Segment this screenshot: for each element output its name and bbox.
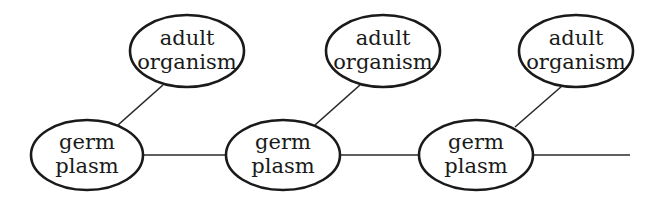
edge-germ1-adult1 bbox=[118, 85, 163, 125]
node-adult-organism-3: adult organism bbox=[519, 15, 633, 87]
node-label-line1: germ bbox=[255, 130, 311, 154]
node-germ-plasm-2: germ plasm bbox=[226, 120, 340, 190]
node-label-line1: germ bbox=[448, 130, 504, 154]
node-label-line1: germ bbox=[59, 130, 115, 154]
node-label-line2: plasm bbox=[251, 154, 314, 178]
node-adult-organism-2: adult organism bbox=[326, 15, 440, 87]
edge-germ2-adult2 bbox=[315, 85, 360, 125]
node-label-line2: plasm bbox=[444, 154, 507, 178]
node-germ-plasm-1: germ plasm bbox=[31, 120, 143, 190]
node-germ-plasm-3: germ plasm bbox=[419, 120, 533, 190]
node-label-line2: plasm bbox=[55, 154, 118, 178]
edge-germ3-adult3 bbox=[515, 86, 562, 127]
node-label-line1: adult bbox=[549, 26, 604, 50]
node-label-line2: organism bbox=[526, 50, 626, 74]
germ-plasm-diagram: germ plasm germ plasm germ plasm adult o… bbox=[0, 0, 669, 205]
node-label-line2: organism bbox=[137, 50, 237, 74]
node-label-line2: organism bbox=[333, 50, 433, 74]
node-adult-organism-1: adult organism bbox=[130, 15, 244, 87]
node-label-line1: adult bbox=[356, 26, 411, 50]
node-label-line1: adult bbox=[160, 26, 215, 50]
